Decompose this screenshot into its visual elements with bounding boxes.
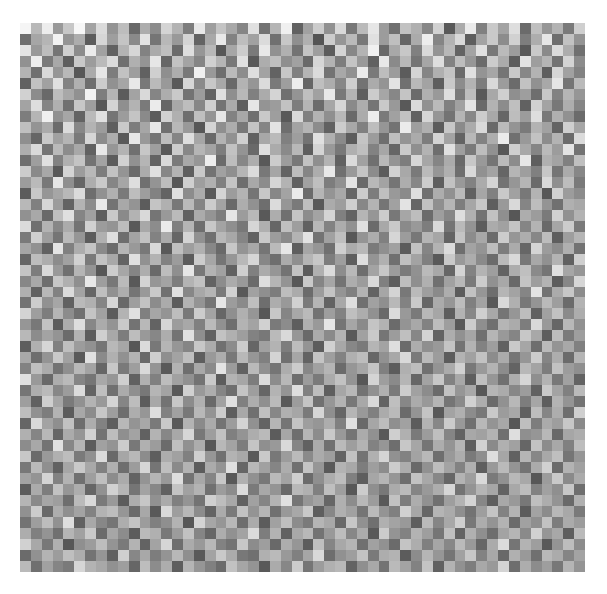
heatmap-cell [509,341,520,352]
heatmap-cell [455,232,466,243]
heatmap-cell [42,210,53,221]
heatmap-cell [400,506,411,517]
heatmap-cell [281,308,292,319]
heatmap-cell [433,363,444,374]
heatmap-cell [107,396,118,407]
heatmap-cell [400,374,411,385]
heatmap-cell [487,407,498,418]
heatmap-cell [498,506,509,517]
heatmap-cell [216,243,227,254]
heatmap-cell [509,265,520,276]
heatmap-cell [368,243,379,254]
heatmap-cell [335,155,346,166]
heatmap-cell [172,45,183,56]
heatmap-cell [172,308,183,319]
heatmap-cell [129,34,140,45]
heatmap-cell [216,539,227,550]
heatmap-cell [259,495,270,506]
heatmap-cell [379,188,390,199]
heatmap-cell [194,89,205,100]
heatmap-cell [129,297,140,308]
heatmap-cell [85,374,96,385]
heatmap-cell [259,308,270,319]
heatmap-cell [259,396,270,407]
heatmap-cell [42,100,53,111]
heatmap-cell [357,100,368,111]
heatmap-cell [324,133,335,144]
heatmap-cell [216,363,227,374]
heatmap-cell [433,287,444,298]
heatmap-cell [303,429,314,440]
heatmap-cell [53,144,64,155]
heatmap-cell [237,440,248,451]
heatmap-cell [379,254,390,265]
heatmap-cell [281,363,292,374]
heatmap-cell [400,122,411,133]
heatmap-cell [248,374,259,385]
heatmap-cell [172,407,183,418]
heatmap-cell [96,56,107,67]
heatmap-cell [237,330,248,341]
heatmap-cell [150,34,161,45]
heatmap-cell [248,396,259,407]
heatmap-cell [281,276,292,287]
heatmap-cell [552,385,563,396]
heatmap-cell [563,363,574,374]
heatmap-cell [53,506,64,517]
heatmap-cell [42,56,53,67]
heatmap-cell [129,166,140,177]
heatmap-cell [531,287,542,298]
heatmap-cell [63,265,74,276]
heatmap-cell [172,155,183,166]
heatmap-cell [140,122,151,133]
heatmap-cell [140,308,151,319]
heatmap-cell [465,550,476,561]
heatmap-cell [129,363,140,374]
heatmap-cell [150,144,161,155]
heatmap-cell [42,539,53,550]
heatmap-cell [433,254,444,265]
heatmap-cell [368,122,379,133]
heatmap-cell [216,517,227,528]
heatmap-cell [292,56,303,67]
heatmap-cell [313,363,324,374]
heatmap-cell [118,462,129,473]
heatmap-cell [31,374,42,385]
heatmap-cell [574,385,585,396]
heatmap-cell [542,561,553,572]
heatmap-cell [248,188,259,199]
heatmap-cell [400,484,411,495]
heatmap-cell [357,561,368,572]
heatmap-cell [465,330,476,341]
heatmap-cell [389,528,400,539]
heatmap-cell [150,45,161,56]
heatmap-cell [194,276,205,287]
heatmap-cell [389,133,400,144]
heatmap-cell [292,484,303,495]
heatmap-cell [476,506,487,517]
heatmap-cell [542,155,553,166]
heatmap-cell [509,352,520,363]
heatmap-cell [433,352,444,363]
heatmap-cell [487,473,498,484]
heatmap-cell [85,462,96,473]
heatmap-cell [455,199,466,210]
heatmap-cell [31,451,42,462]
heatmap-cell [487,155,498,166]
heatmap-cell [400,111,411,122]
heatmap-cell [248,276,259,287]
heatmap-cell [107,308,118,319]
heatmap-cell [303,495,314,506]
heatmap-cell [303,166,314,177]
heatmap-cell [20,155,31,166]
heatmap-cell [379,297,390,308]
heatmap-cell [324,440,335,451]
heatmap-cell [281,374,292,385]
heatmap-cell [433,407,444,418]
heatmap-cell [85,232,96,243]
heatmap-cell [129,561,140,572]
heatmap-cell [226,188,237,199]
heatmap-cell [465,188,476,199]
heatmap-cell [498,418,509,429]
heatmap-cell [411,319,422,330]
